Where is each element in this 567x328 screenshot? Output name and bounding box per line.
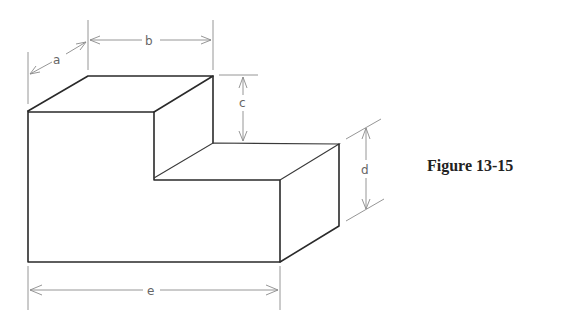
figure-caption: Figure 13-15 [427,157,513,175]
dimension-label-c: c [239,96,246,110]
dimension-c: c [219,75,258,141]
dimension-label-a: a [53,53,60,67]
dimension-b: b [90,20,213,70]
dimension-label-e: e [147,284,154,298]
dimension-a: a [28,20,88,104]
block-edges [28,76,339,262]
dimension-label-b: b [145,34,153,48]
dimension-label-d: d [361,163,369,177]
dimension-e: e [28,266,280,310]
dimension-d: d [346,119,384,221]
